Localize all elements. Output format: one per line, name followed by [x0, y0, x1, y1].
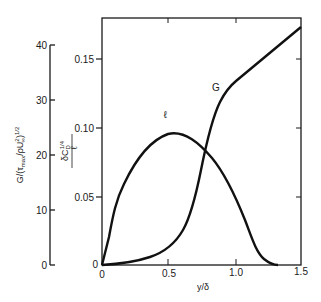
- x-tick-0.5: 0.5: [162, 268, 176, 279]
- svg-text:G/(τmax/ρU2∞)1/2: G/(τmax/ρU2∞)1/2: [14, 126, 26, 183]
- x-tick-0: 0: [99, 269, 105, 280]
- y2-tick-0: 0: [41, 260, 47, 271]
- curve-l-label: ℓ: [163, 109, 167, 120]
- x-tick-1.5: 1.5: [294, 266, 308, 277]
- ylabel2-sub: max: [20, 156, 26, 167]
- chart: 40 30 20 10 0 G/(τmax/ρU2∞)1/2 0.15 0.10…: [0, 0, 321, 302]
- x-axis-label: y/δ: [197, 282, 209, 292]
- ylabel-denom-sub: D: [65, 145, 71, 150]
- x-tick-1.0: 1.0: [229, 267, 243, 278]
- y2-tick-40: 40: [36, 40, 48, 51]
- curve-l: [102, 133, 278, 265]
- y2-tick-20: 20: [36, 150, 48, 161]
- ylabel2-part: /ρU: [15, 142, 25, 156]
- primary-y-axis-label: ℓ δCD1/4: [59, 134, 79, 168]
- y-tick-0.10: 0.10: [75, 123, 95, 134]
- curve-g-label: G: [212, 82, 220, 93]
- secondary-y-axis-label: G/(τmax/ρU2∞)1/2: [14, 126, 26, 183]
- y2-tick-10: 10: [36, 205, 48, 216]
- ylabel2-part: G/(τ: [15, 167, 25, 183]
- y2-tick-30: 30: [36, 95, 48, 106]
- primary-y-axis: 0.15 0.10 0.05 0 ℓ δCD1/4: [59, 54, 301, 270]
- y-tick-0.15: 0.15: [75, 54, 95, 65]
- secondary-y-axis: 40 30 20 10 0 G/(τmax/ρU2∞)1/2: [14, 40, 55, 271]
- ylabel-denom: δC: [60, 149, 70, 161]
- y-tick-0: 0: [92, 259, 98, 270]
- ylabel-denom-sup: 1/4: [59, 140, 65, 149]
- svg-text:δCD1/4: δCD1/4: [59, 140, 71, 161]
- plot-frame: [102, 18, 301, 265]
- y-tick-0.05: 0.05: [75, 192, 95, 203]
- ylabel2-exp: 1/2: [14, 126, 20, 135]
